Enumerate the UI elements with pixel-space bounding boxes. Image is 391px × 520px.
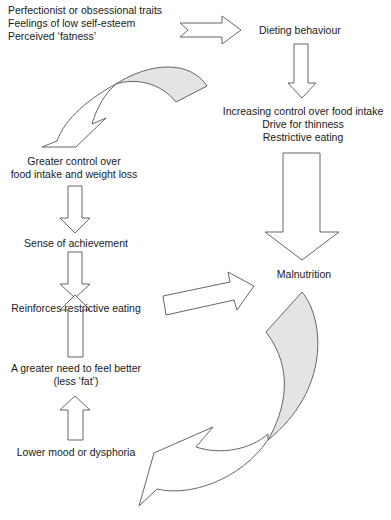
curved-arrow-down-left-icon (139, 427, 268, 506)
node-need-to-feel-better: A greater need to feel better (less ‘fat… (11, 362, 141, 388)
node-text: Dieting behaviour (259, 24, 341, 37)
node-greater-control: Greater control over food intake and wei… (11, 155, 138, 181)
node-text: Drive for thinness (223, 118, 384, 131)
node-text: A greater need to feel better (11, 362, 141, 375)
node-text: Restrictive eating (223, 131, 384, 144)
node-text: food intake and weight loss (11, 168, 138, 181)
risk-factor-line: Perfectionist or obsessional traits (8, 4, 162, 17)
node-text: (less ‘fat’) (11, 375, 141, 388)
node-text: Malnutrition (277, 268, 331, 281)
node-sense-of-achievement: Sense of achievement (24, 237, 128, 250)
arrow-up-icon (60, 396, 90, 440)
risk-factor-line: Feelings of low self-esteem (8, 17, 162, 30)
node-text: Sense of achievement (24, 237, 128, 250)
curved-arrow-left-down-icon (42, 84, 116, 147)
curved-arrow-tail-shaded-icon (116, 67, 207, 102)
arrow-slanted-right-icon (163, 272, 254, 315)
curved-arrow-tail-shaded-icon (266, 292, 318, 440)
node-text: Increasing control over food intake (223, 105, 384, 118)
node-text: Greater control over (11, 155, 138, 168)
node-reinforces-restrictive-eating: Reinforces restrictive eating (11, 302, 141, 315)
node-lower-mood: Lower mood or dysphoria (17, 446, 135, 459)
risk-factor-line: Perceived ‘fatness’ (8, 30, 162, 43)
diagram-arrows (0, 0, 391, 520)
node-malnutrition: Malnutrition (277, 268, 331, 281)
arrow-down-large-icon (265, 153, 339, 260)
node-dieting-behaviour: Dieting behaviour (259, 24, 341, 37)
arrow-down-icon (60, 186, 90, 233)
node-risk-factors: Perfectionist or obsessional traits Feel… (8, 4, 162, 43)
arrow-down-icon (288, 44, 316, 98)
node-text: Reinforces restrictive eating (11, 302, 141, 315)
arrow-down-icon (60, 252, 90, 298)
node-control: Increasing control over food intake Driv… (223, 105, 384, 144)
arrow-right-icon (180, 16, 241, 44)
node-text: Lower mood or dysphoria (17, 446, 135, 459)
